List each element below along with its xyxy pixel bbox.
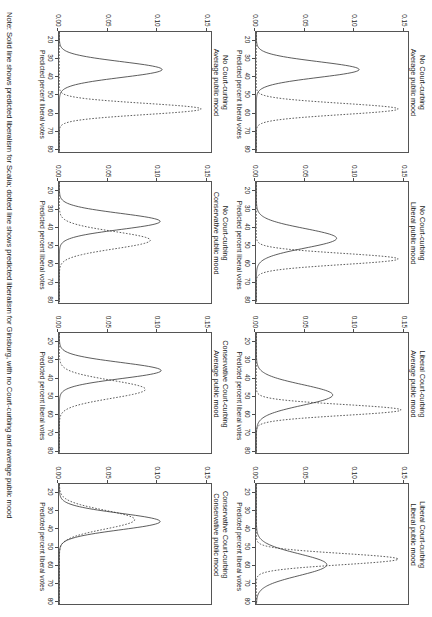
plot-box	[58, 332, 212, 454]
panel-title-line1: Liberal Court-curbing	[418, 350, 427, 417]
x-axis-label: Predicted percent liberal votes	[39, 187, 46, 304]
x-tick-mark	[252, 209, 255, 210]
x-axis-label: Predicted percent liberal votes	[236, 488, 243, 605]
x-axis: 20304050607080Predicted percent liberal …	[36, 462, 58, 607]
panel-title: Conservative Court-curbingAverage public…	[212, 340, 230, 427]
x-tick-mark	[55, 396, 58, 397]
panel-p7: Conservative Court-curbingAverage public…	[36, 312, 231, 457]
x-tick-mark	[55, 378, 58, 379]
x-axis-label: Predicted percent liberal votes	[39, 488, 46, 605]
x-tick-mark	[252, 359, 255, 360]
y-axis: 0.000.050.100.15	[58, 312, 212, 333]
x-tick-label: 70	[244, 429, 251, 436]
x-tick-label: 80	[47, 447, 54, 454]
x-tick-mark	[252, 601, 255, 602]
panel-title-line2: Conservative public mood	[212, 192, 221, 275]
x-tick-label: 70	[244, 127, 251, 134]
x-axis-label: Predicted percent liberal votes	[39, 36, 46, 153]
density-curve-scalia	[256, 32, 359, 152]
x-tick-mark	[252, 113, 255, 114]
x-tick-mark	[252, 378, 255, 379]
x-tick-label: 60	[47, 260, 54, 267]
plot-box	[255, 181, 409, 303]
panel-p6: No Court-curbingConservative public mood…	[36, 161, 231, 306]
x-tick-mark	[252, 547, 255, 548]
x-tick-label: 60	[47, 561, 54, 568]
plot-box	[58, 181, 212, 303]
y-axis: 0.000.050.100.15	[58, 462, 212, 483]
x-axis: 20304050607080Predicted percent liberal …	[36, 161, 58, 306]
panel-title-line1: No Court-curbing	[418, 55, 427, 110]
x-tick-label: 60	[244, 260, 251, 267]
x-tick-mark	[252, 492, 255, 493]
plot-box	[58, 31, 212, 153]
y-tick-label: 0.05	[301, 165, 308, 177]
x-axis: 20304050607080Predicted percent liberal …	[36, 10, 58, 155]
x-tick-mark	[55, 583, 58, 584]
x-tick-label: 20	[47, 36, 54, 43]
x-tick-mark	[55, 227, 58, 228]
x-tick-label: 80	[244, 598, 251, 605]
panel-p3: Liberal Court-curbingAverage public mood…	[233, 312, 428, 457]
panel-title-line1: Liberal Court-curbing	[418, 501, 427, 568]
plot-box	[255, 483, 409, 605]
x-tick-label: 50	[244, 392, 251, 399]
x-tick-label: 80	[244, 447, 251, 454]
density-curve-scalia	[59, 182, 160, 302]
x-tick-label: 30	[244, 205, 251, 212]
x-tick-mark	[252, 414, 255, 415]
x-tick-mark	[55, 601, 58, 602]
x-tick-label: 30	[47, 507, 54, 514]
x-tick-mark	[252, 131, 255, 132]
x-tick-mark	[252, 583, 255, 584]
y-tick-label: 0.10	[351, 14, 358, 26]
x-axis-label: Predicted percent liberal votes	[236, 36, 243, 153]
x-axis-label: Predicted percent liberal votes	[39, 338, 46, 455]
density-curve-scalia	[59, 32, 162, 152]
panel-grid: No Court-curbingAverage public mood0.000…	[36, 10, 428, 607]
x-tick-mark	[55, 149, 58, 150]
plot-area: 0.000.050.100.15	[58, 312, 212, 457]
x-tick-mark	[55, 414, 58, 415]
panel-title-line2: Liberal public mood	[409, 501, 418, 568]
x-tick-label: 50	[47, 392, 54, 399]
density-curve-ginsburg	[256, 182, 398, 302]
x-tick-mark	[252, 341, 255, 342]
x-tick-mark	[55, 510, 58, 511]
x-tick-label: 70	[47, 278, 54, 285]
x-tick-mark	[252, 565, 255, 566]
x-axis: 20304050607080Predicted percent liberal …	[233, 462, 255, 607]
x-tick-mark	[252, 40, 255, 41]
x-tick-mark	[252, 94, 255, 95]
panel-title-line1: Conservative Court-curbing	[221, 340, 230, 427]
density-curve-scalia	[59, 484, 160, 604]
plot-area: 0.000.050.100.15	[58, 161, 212, 306]
plot-box	[255, 31, 409, 153]
x-tick-mark	[252, 396, 255, 397]
x-tick-mark	[252, 149, 255, 150]
density-curve-scalia	[256, 484, 326, 604]
x-tick-label: 40	[47, 374, 54, 381]
x-tick-mark	[55, 565, 58, 566]
x-tick-label: 60	[47, 411, 54, 418]
x-tick-mark	[55, 76, 58, 77]
density-curve-scalia	[256, 182, 336, 302]
density-curve-scalia	[256, 333, 332, 453]
y-tick-label: 0.05	[301, 14, 308, 26]
x-tick-mark	[55, 341, 58, 342]
y-tick-label: 0.10	[154, 14, 161, 26]
x-tick-label: 40	[244, 223, 251, 230]
x-tick-label: 80	[47, 296, 54, 303]
x-tick-mark	[252, 58, 255, 59]
y-tick-label: 0.15	[203, 466, 210, 478]
x-tick-label: 60	[47, 109, 54, 116]
density-curve-ginsburg	[59, 484, 134, 604]
plot-area: 0.000.050.100.15	[58, 10, 212, 155]
y-axis: 0.000.050.100.15	[255, 462, 409, 483]
density-curve-ginsburg	[59, 32, 201, 152]
x-tick-mark	[55, 432, 58, 433]
x-tick-label: 30	[47, 205, 54, 212]
plot-box	[255, 332, 409, 454]
y-tick-label: 0.10	[154, 165, 161, 177]
x-tick-label: 50	[47, 242, 54, 249]
